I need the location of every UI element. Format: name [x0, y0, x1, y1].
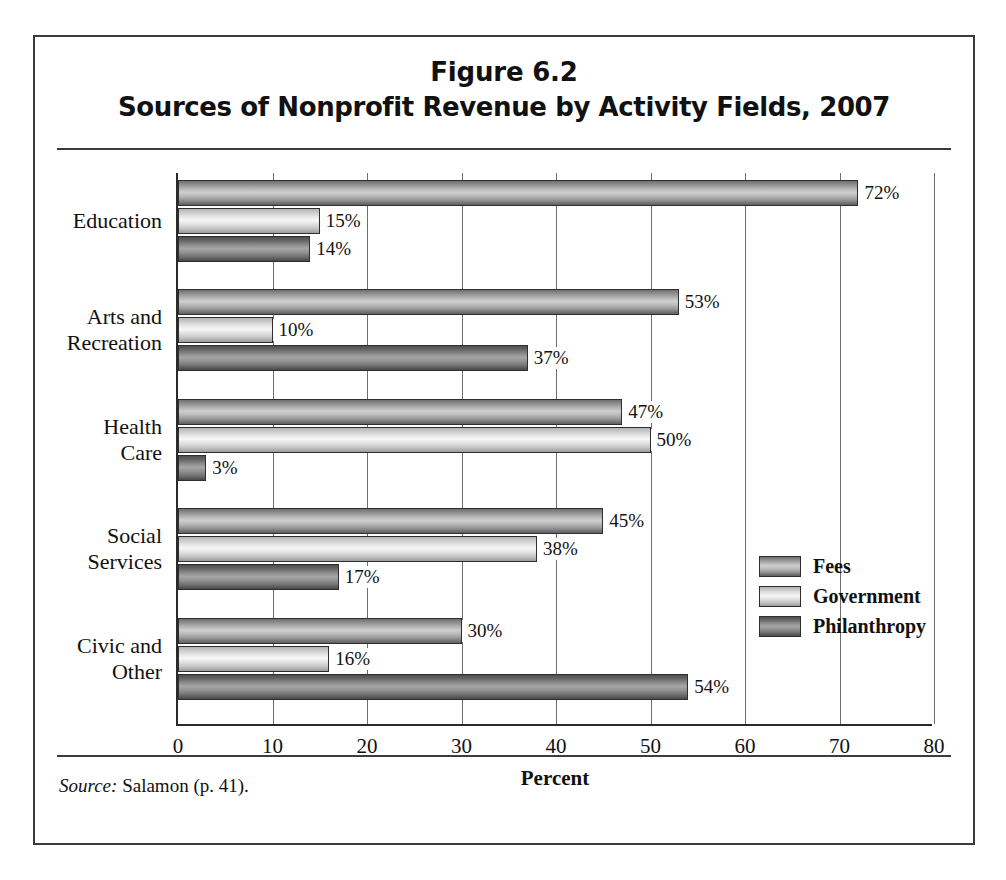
bar-value-label: 3% — [206, 457, 237, 479]
bar-value-label: 37% — [528, 347, 569, 369]
bar-row: 10% — [178, 316, 932, 344]
bar-philanthropy[interactable] — [178, 564, 339, 590]
bar-fees[interactable] — [178, 508, 603, 534]
bar-row: 16% — [178, 645, 932, 673]
bar-government[interactable] — [178, 646, 329, 672]
bar-row: 14% — [178, 235, 932, 263]
category-label-line: Care — [103, 440, 162, 466]
bar-value-label: 54% — [688, 676, 729, 698]
bar-government[interactable] — [178, 536, 537, 562]
category-label-line: Education — [73, 208, 162, 234]
bar-value-label: 16% — [329, 648, 370, 670]
bar-group: Education72%15%14% — [178, 179, 932, 263]
source-text: Salamon (p. 41). — [117, 775, 248, 796]
bar-row: 15% — [178, 207, 932, 235]
bar-value-label: 15% — [320, 210, 361, 232]
category-label: Education — [73, 208, 162, 234]
bar-value-label: 38% — [537, 538, 578, 560]
legend-swatch-fees — [759, 556, 801, 577]
legend-swatch-philanthropy — [759, 616, 801, 637]
category-label-line: Arts and — [67, 304, 162, 330]
bar-fees[interactable] — [178, 180, 858, 206]
category-label: Arts andRecreation — [67, 304, 162, 356]
legend-label: Philanthropy — [813, 615, 926, 638]
legend-label: Government — [813, 585, 921, 608]
bar-value-label: 17% — [339, 566, 380, 588]
bar-row: 50% — [178, 426, 932, 454]
bar-value-label: 50% — [651, 429, 692, 451]
bar-government[interactable] — [178, 208, 320, 234]
category-label-line: Social — [87, 523, 162, 549]
bar-fees[interactable] — [178, 289, 679, 315]
category-label-line: Health — [103, 414, 162, 440]
gridline-80 — [934, 173, 935, 724]
bar-row: 54% — [178, 673, 932, 701]
bar-value-label: 10% — [273, 319, 314, 341]
bar-fees[interactable] — [178, 399, 622, 425]
bar-group: HealthCare47%50%3% — [178, 398, 932, 482]
bar-row: 3% — [178, 454, 932, 482]
bar-government[interactable] — [178, 427, 651, 453]
category-label-line: Civic and — [77, 633, 162, 659]
chart-area: Percent 01020304050607080Education72%15%… — [35, 37, 973, 843]
bar-row: 53% — [178, 288, 932, 316]
figure-frame: Figure 6.2 Sources of Nonprofit Revenue … — [33, 35, 975, 845]
bar-philanthropy[interactable] — [178, 345, 528, 371]
bar-value-label: 72% — [858, 182, 899, 204]
category-label: Civic andOther — [77, 633, 162, 685]
bar-value-label: 47% — [622, 401, 663, 423]
source-divider — [57, 755, 951, 757]
legend-label: Fees — [813, 555, 851, 578]
bar-row: 72% — [178, 179, 932, 207]
bar-value-label: 45% — [603, 510, 644, 532]
bar-philanthropy[interactable] — [178, 236, 310, 262]
legend-swatch-government — [759, 586, 801, 607]
bar-fees[interactable] — [178, 618, 462, 644]
category-label: SocialServices — [87, 523, 162, 575]
category-label-line: Other — [77, 659, 162, 685]
bar-value-label: 14% — [310, 238, 351, 260]
bar-value-label: 30% — [462, 620, 503, 642]
bar-philanthropy[interactable] — [178, 455, 206, 481]
source-note: Source: Salamon (p. 41). — [59, 775, 249, 797]
category-label: HealthCare — [103, 414, 162, 466]
plot-area: Percent 01020304050607080Education72%15%… — [176, 173, 932, 726]
source-label: Source: — [59, 775, 117, 796]
bar-row: 37% — [178, 344, 932, 372]
category-label-line: Recreation — [67, 330, 162, 356]
category-label-line: Services — [87, 549, 162, 575]
bar-group: Arts andRecreation53%10%37% — [178, 288, 932, 372]
legend-item-philanthropy[interactable]: Philanthropy — [759, 611, 949, 641]
legend-item-fees[interactable]: Fees — [759, 551, 949, 581]
bar-government[interactable] — [178, 317, 273, 343]
bar-row: 47% — [178, 398, 932, 426]
x-axis-title: Percent — [178, 766, 932, 791]
chart-legend: FeesGovernmentPhilanthropy — [759, 551, 949, 641]
legend-item-government[interactable]: Government — [759, 581, 949, 611]
bar-philanthropy[interactable] — [178, 674, 688, 700]
bar-value-label: 53% — [679, 291, 720, 313]
bar-row: 45% — [178, 507, 932, 535]
